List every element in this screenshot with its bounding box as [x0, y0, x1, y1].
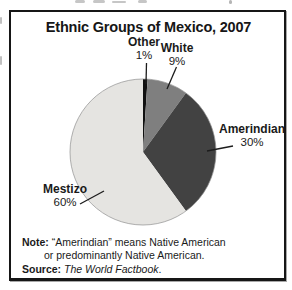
note-line1: “Amerindian” means Native American [52, 236, 226, 248]
slice-name: Amerindian [212, 123, 292, 136]
slice-name: White [147, 42, 207, 55]
slice-percent: 30% [212, 136, 292, 149]
source-suffix: . [159, 263, 162, 275]
slice-percent: 9% [147, 55, 207, 68]
slice-percent: 60% [25, 196, 105, 209]
note-line2: or predominantly Native American. [22, 249, 272, 262]
figure-note: Note: “Amerindian” means Native American… [22, 236, 272, 262]
source-title: The World Factbook [64, 263, 159, 275]
note-prefix: Note: [22, 236, 49, 248]
slice-label-mestizo: Mestizo 60% [25, 183, 105, 209]
scanned-figure-page: Ethnic Groups of Mexico, 2007 Other 1% W… [0, 0, 292, 290]
slice-name: Mestizo [25, 183, 105, 196]
figure-source: Source: The World Factbook. [22, 263, 272, 275]
slice-label-amerindian: Amerindian 30% [212, 123, 292, 149]
slice-label-white: White 9% [147, 42, 207, 68]
source-prefix: Source: [22, 263, 61, 275]
